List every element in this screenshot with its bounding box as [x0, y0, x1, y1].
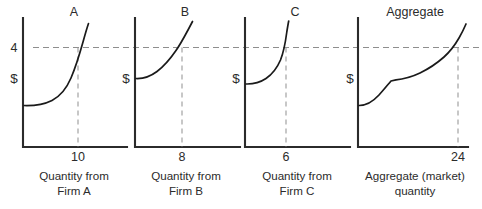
panel-a-title: A — [70, 5, 79, 19]
panel-firm-b: B $ 8 Quantity from Firm B — [122, 5, 240, 197]
panel-firm-a: A $ 10 Quantity from Firm A — [10, 5, 127, 197]
panel-aggregate-axes — [358, 18, 468, 147]
supply-curve-figure: 4 A $ 10 Quantity from Firm A B $ 8 Quan… — [0, 0, 482, 209]
panel-c-supply-curve — [246, 21, 289, 84]
panel-aggregate-title: Aggregate — [386, 5, 444, 19]
panel-aggregate: Aggregate $ 24 Aggregate (market) quanti… — [346, 5, 468, 197]
panel-c-caption-line1: Quantity from — [262, 169, 332, 182]
panel-c-quantity-tick: 6 — [283, 150, 290, 164]
panel-firm-c: C $ 6 Quantity from Firm C — [232, 5, 350, 197]
panel-a-caption-line2: Firm A — [57, 184, 91, 197]
panel-b-caption-line2: Firm B — [169, 184, 203, 197]
panel-a-supply-curve — [24, 24, 89, 106]
panel-aggregate-supply-curve — [359, 24, 466, 106]
panel-a-axes — [23, 18, 127, 147]
panel-aggregate-caption-line2: quantity — [395, 184, 436, 197]
panel-c-title: C — [290, 5, 299, 19]
panel-c-price-label: $ — [232, 71, 240, 86]
panel-a-quantity-tick: 10 — [71, 150, 85, 164]
price-level-label: 4 — [11, 41, 18, 55]
panel-b-supply-curve — [136, 22, 193, 79]
figure-canvas: 4 A $ 10 Quantity from Firm A B $ 8 Quan… — [0, 0, 482, 209]
panel-b-title: B — [181, 5, 189, 19]
panel-b-axes — [135, 18, 240, 147]
panel-b-price-label: $ — [122, 71, 130, 86]
panel-b-quantity-tick: 8 — [179, 150, 186, 164]
panel-c-caption-line2: Firm C — [280, 184, 315, 197]
panel-aggregate-quantity-tick: 24 — [451, 150, 465, 164]
panel-b-caption-line1: Quantity from — [151, 169, 221, 182]
panel-a-caption-line1: Quantity from — [39, 169, 109, 182]
panel-c-axes — [245, 18, 350, 147]
panel-a-price-label: $ — [10, 71, 18, 86]
panel-aggregate-caption-line1: Aggregate (market) — [365, 169, 465, 182]
panel-aggregate-price-label: $ — [346, 71, 354, 86]
